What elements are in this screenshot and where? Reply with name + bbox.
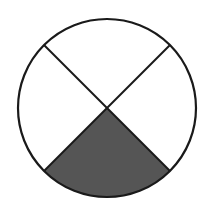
fraction-circle-svg <box>0 0 209 213</box>
fraction-diagram <box>0 0 209 213</box>
